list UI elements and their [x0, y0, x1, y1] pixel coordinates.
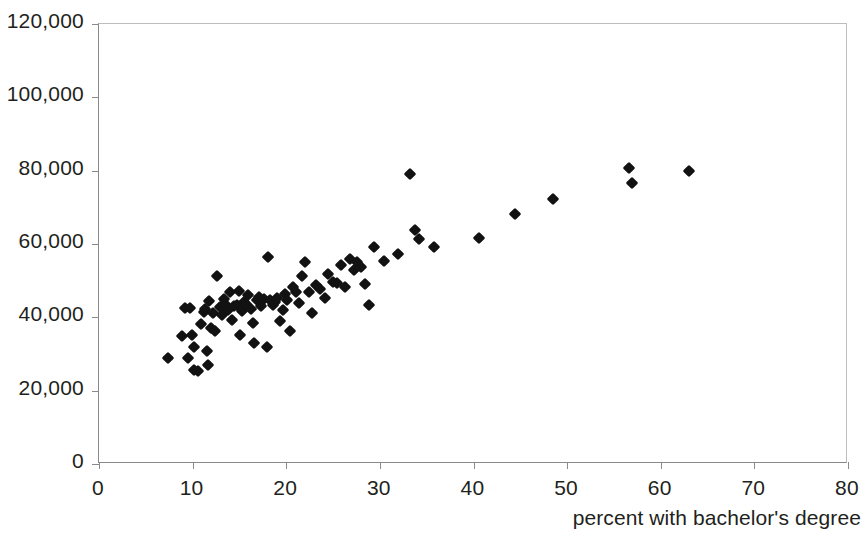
data-point [403, 168, 416, 181]
x-axis-tick-mark [474, 462, 475, 469]
data-point [391, 248, 404, 261]
data-point [296, 270, 309, 283]
data-point [273, 315, 286, 328]
data-point [246, 317, 259, 330]
x-axis-tick-label: 50 [526, 476, 606, 500]
data-point [162, 351, 175, 364]
data-point [377, 254, 390, 267]
data-point [473, 231, 486, 244]
y-axis-tick-mark [92, 97, 99, 98]
x-axis-tick-label: 30 [339, 476, 419, 500]
y-axis-tick-label: 100,000 [7, 82, 84, 106]
y-axis-tick-label: 40,000 [19, 302, 84, 326]
y-axis-tick-label: 0 [72, 449, 84, 473]
data-point [362, 299, 375, 312]
y-axis-tick-mark [92, 391, 99, 392]
x-axis-title: percent with bachelor's degree [573, 506, 861, 530]
x-axis-tick-mark [286, 462, 287, 469]
data-point [508, 208, 521, 221]
x-axis-tick-label: 10 [152, 476, 232, 500]
data-point [185, 328, 198, 341]
y-axis-tick-mark [92, 24, 99, 25]
y-axis-tick-mark [92, 317, 99, 318]
y-axis-tick-mark [92, 171, 99, 172]
data-point [547, 193, 560, 206]
data-point [625, 176, 638, 189]
data-point [182, 351, 195, 364]
data-point [428, 240, 441, 253]
plot-area [98, 23, 847, 463]
x-axis-tick-mark [661, 462, 662, 469]
x-axis-tick-mark [567, 462, 568, 469]
y-axis-tick-label: 60,000 [19, 229, 84, 253]
y-axis-tick-mark [92, 464, 99, 465]
data-point [211, 270, 224, 283]
x-axis-tick-mark [848, 462, 849, 469]
data-point [359, 277, 372, 290]
data-point [306, 307, 319, 320]
x-axis-tick-label: 60 [620, 476, 700, 500]
x-axis-tick-label: 70 [713, 476, 793, 500]
y-axis-tick-label: 120,000 [7, 9, 84, 33]
scatter-chart: 020,00040,00060,00080,000100,000120,000 … [0, 0, 867, 544]
y-axis-tick-label: 80,000 [19, 156, 84, 180]
y-axis-tick-mark [92, 244, 99, 245]
data-point [293, 297, 306, 310]
data-point [623, 161, 636, 174]
x-axis-tick-label: 0 [58, 476, 138, 500]
x-axis-tick-label: 40 [433, 476, 513, 500]
data-point [234, 329, 247, 342]
data-point [682, 165, 695, 178]
data-point [248, 336, 261, 349]
data-point [262, 250, 275, 263]
data-point [200, 344, 213, 357]
data-point [368, 241, 381, 254]
x-axis-tick-mark [380, 462, 381, 469]
y-axis-tick-label: 20,000 [19, 376, 84, 400]
x-axis-tick-mark [99, 462, 100, 469]
x-axis-tick-label: 20 [245, 476, 325, 500]
data-point [260, 341, 273, 354]
x-axis-tick-mark [754, 462, 755, 469]
data-point [299, 255, 312, 268]
x-axis-tick-mark [193, 462, 194, 469]
data-point [284, 325, 297, 338]
x-axis-tick-label: 80 [807, 476, 867, 500]
